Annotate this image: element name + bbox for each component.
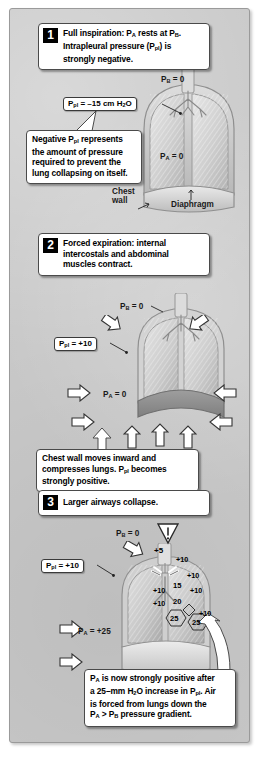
step-3-callout: 3 Larger airways collapse. bbox=[38, 490, 210, 516]
leader-line-pleural-3 bbox=[97, 563, 121, 581]
pressure-value-pleural-mid-right: +10 bbox=[190, 586, 202, 595]
pleural-pressure-pill-panel-1: Ppl = –15 cm H2O bbox=[63, 97, 137, 111]
pressure-value-pleural-left-upper: +10 bbox=[153, 586, 165, 595]
pa-label-panel-1: PA = 0 bbox=[160, 152, 183, 161]
leader-line-pb-2 bbox=[151, 304, 169, 316]
pressure-value-pleural-left-lower: +10 bbox=[153, 599, 165, 608]
pleural-pressure-pill-panel-2: Ppl = +10 bbox=[54, 337, 97, 351]
pb-label-panel-1: PB = 0 bbox=[161, 75, 184, 84]
pleural-pressure-pill-panel-3: Ppl = +10 bbox=[41, 559, 84, 573]
pressure-value-bronchus-upper: 15 bbox=[173, 581, 181, 590]
pressure-value-alveolus-right: 25 bbox=[192, 618, 200, 627]
airway-collapse-warning-icon bbox=[157, 523, 179, 545]
abdominal-arrow-left bbox=[123, 425, 141, 449]
step-2-text: Forced expiration: internal intercostals… bbox=[63, 238, 169, 270]
pressure-value-pleural-right: +10 bbox=[187, 571, 199, 580]
pb-label-panel-3: PB = 0 bbox=[116, 529, 139, 538]
step-1-text: Full inspiration: PA rests at PB. Intrap… bbox=[63, 28, 181, 64]
compression-arrow-panel3-top bbox=[122, 541, 146, 561]
step-3-text: Larger airways collapse. bbox=[63, 497, 158, 508]
step-2-callout: 2 Forced expiration: internal intercosta… bbox=[38, 233, 210, 276]
leader-line-pleural-1 bbox=[162, 101, 188, 119]
compression-arrow-mid-left bbox=[66, 384, 92, 402]
panel-3-airway-collapse: 3 Larger airways collapse. bbox=[10, 485, 250, 743]
compression-arrow-panel3-lower-left bbox=[58, 653, 84, 671]
pressure-value-bronchus-mid: 20 bbox=[173, 597, 181, 606]
pb-label-panel-2: PB = 0 bbox=[120, 302, 143, 311]
step-3-number: 3 bbox=[43, 495, 58, 510]
step-2-number: 2 bbox=[43, 238, 58, 253]
compression-arrow-upper-left bbox=[100, 315, 124, 337]
airway-junction-shape bbox=[182, 603, 196, 617]
pressure-value-pleural-upper-right: +10 bbox=[176, 555, 188, 564]
leader-line-pleural-2 bbox=[110, 341, 134, 357]
note-pointer-arrow-panel-3 bbox=[196, 609, 242, 675]
pressure-value-pleural-lower-right: +10 bbox=[199, 609, 211, 618]
thorax-illustration-panel-2 bbox=[122, 293, 244, 433]
compression-arrow-lower-right bbox=[208, 413, 234, 431]
figure-frame: 1 Full inspiration: PA rests at PB. Intr… bbox=[9, 8, 250, 743]
abdominal-arrow-right bbox=[179, 425, 197, 449]
diaphragm-label: Diaphragm bbox=[171, 200, 214, 209]
compression-arrow-mid-right bbox=[212, 384, 238, 402]
abdominal-arrow-center bbox=[151, 423, 169, 447]
trachea-pressure-value: +5 bbox=[154, 546, 163, 555]
pa-label-panel-3: PA = +25 bbox=[78, 627, 111, 636]
pressure-value-alveolus-left: 25 bbox=[170, 614, 178, 623]
step-1-callout: 1 Full inspiration: PA rests at PB. Intr… bbox=[38, 23, 210, 70]
step-1-number: 1 bbox=[43, 28, 58, 43]
note-callout-panel-3: PA is now strongly positive after a 25–m… bbox=[84, 669, 236, 727]
panel-2-forced-expiration: 2 Forced expiration: internal intercosta… bbox=[10, 227, 250, 485]
chest-wall-label: Chestwall bbox=[112, 187, 135, 205]
note-callout-panel-1: Negative Ppl represents the amount of pr… bbox=[26, 130, 142, 184]
compression-arrow-upper-right bbox=[186, 315, 210, 337]
pa-label-panel-2: PA = 0 bbox=[103, 390, 126, 399]
chest-wall-pointer bbox=[138, 202, 154, 212]
note-callout-panel-2: Chest wall moves inward and compresses l… bbox=[36, 449, 199, 492]
panel-1-full-inspiration: 1 Full inspiration: PA rests at PB. Intr… bbox=[10, 9, 250, 227]
